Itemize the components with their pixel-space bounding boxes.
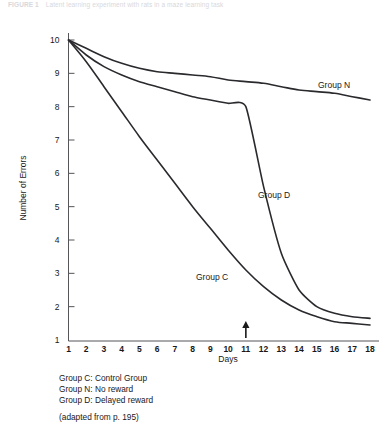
y-tick-label: 1 bbox=[55, 335, 60, 345]
series-line-group-n bbox=[69, 40, 371, 100]
x-tick-label: 1 bbox=[66, 344, 71, 354]
x-tick-label: 10 bbox=[223, 344, 233, 354]
x-tick-label: 2 bbox=[84, 344, 89, 354]
x-tick-label: 17 bbox=[348, 344, 358, 354]
source-note: (adapted from p. 195) bbox=[59, 412, 139, 423]
x-tick-label: 11 bbox=[241, 344, 250, 354]
legend-item: Group N: No reward bbox=[59, 384, 289, 395]
y-tick-labels: 12345678910 bbox=[50, 35, 60, 345]
x-tick-label: 12 bbox=[259, 344, 269, 354]
legend: Group C: Control Group Group N: No rewar… bbox=[59, 373, 289, 407]
reward-introduced-marker bbox=[242, 321, 249, 338]
y-tick-marks bbox=[69, 40, 75, 307]
x-tick-label: 3 bbox=[102, 344, 107, 354]
x-tick-label: 14 bbox=[294, 344, 304, 354]
legend-item: Group C: Control Group bbox=[59, 373, 289, 384]
y-tick-label: 6 bbox=[55, 168, 60, 178]
arrow-head-icon bbox=[242, 321, 249, 328]
x-tick-label: 13 bbox=[277, 344, 287, 354]
y-tick-label: 3 bbox=[55, 268, 60, 278]
series-label-group-c: Group C bbox=[196, 272, 228, 282]
x-tick-label: 4 bbox=[119, 344, 124, 354]
x-tick-labels: 123456789101112131415161718 bbox=[66, 344, 375, 354]
chart-figure: 12345678910 123456789101112131415161718 … bbox=[0, 0, 387, 434]
series-label-group-d: Group D bbox=[258, 190, 290, 200]
x-tick-label: 7 bbox=[173, 344, 178, 354]
y-tick-label: 8 bbox=[55, 102, 60, 112]
series-label-group-n: Group N bbox=[318, 80, 350, 90]
x-tick-label: 15 bbox=[312, 344, 322, 354]
x-axis-title: Days bbox=[218, 354, 237, 364]
y-tick-label: 5 bbox=[55, 202, 60, 212]
x-tick-label: 6 bbox=[155, 344, 160, 354]
legend-item: Group D: Delayed reward bbox=[59, 395, 289, 406]
y-tick-label: 2 bbox=[55, 302, 60, 312]
x-tick-label: 9 bbox=[208, 344, 213, 354]
x-tick-label: 16 bbox=[330, 344, 340, 354]
y-tick-label: 4 bbox=[55, 235, 60, 245]
y-tick-label: 10 bbox=[50, 35, 60, 45]
line-chart-svg: 12345678910 123456789101112131415161718 … bbox=[0, 0, 387, 434]
x-tick-label: 18 bbox=[365, 344, 375, 354]
y-tick-label: 9 bbox=[55, 68, 60, 78]
y-tick-label: 7 bbox=[55, 135, 60, 145]
x-tick-label: 5 bbox=[137, 344, 142, 354]
y-axis-title: Number of Errors bbox=[18, 155, 28, 220]
x-tick-label: 8 bbox=[190, 344, 195, 354]
series-inline-labels: Group NGroup DGroup C bbox=[196, 80, 350, 282]
